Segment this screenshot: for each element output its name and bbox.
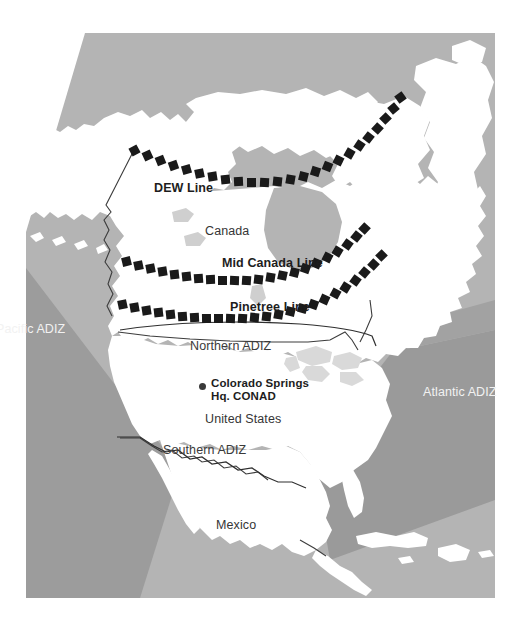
baffin-island xyxy=(326,96,430,192)
colorado-springs-label-line1: Colorado Springs xyxy=(211,377,309,390)
mexico-label: Mexico xyxy=(216,518,256,532)
mid-canada-line-label: Mid Canada Line xyxy=(222,256,323,270)
northern-adiz-label: Northern ADIZ xyxy=(190,339,271,353)
pacific-adiz-label: Pacific ADIZ xyxy=(0,322,65,336)
colorado-springs-label-line2: Hq. CONAD xyxy=(211,390,309,403)
dew-line-label: DEW Line xyxy=(154,181,213,195)
atlantic-adiz-label: Atlantic ADIZ xyxy=(423,385,497,399)
colorado-springs-marker xyxy=(199,383,206,390)
canada-label: Canada xyxy=(205,224,249,238)
united-states-label: United States xyxy=(205,412,281,426)
map-figure: DEW Line Mid Canada Line Pinetree Line C… xyxy=(0,0,518,622)
colorado-springs-label: Colorado Springs Hq. CONAD xyxy=(211,377,309,402)
pinetree-line-label: Pinetree Line xyxy=(230,300,310,314)
southern-adiz-label: Southern ADIZ xyxy=(163,443,246,457)
